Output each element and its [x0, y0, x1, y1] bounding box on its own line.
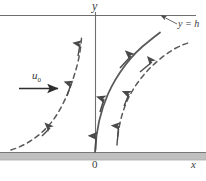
profile-3-arrow-lower	[118, 126, 119, 140]
origin-label: 0	[92, 159, 98, 170]
velocity-profile-figure: y y = h u0 0 x	[0, 0, 206, 181]
profile-1-arrow-middle	[67, 84, 71, 96]
velocity-profile-curve-1	[11, 38, 82, 150]
upper-boundary-label: y = h	[178, 19, 199, 29]
x-axis-label: x	[191, 159, 196, 170]
velocity-profile-curve-2	[95, 33, 160, 153]
profile-1-arrow-upper	[78, 44, 80, 56]
free-stream-velocity-label: u0	[32, 70, 41, 84]
profile-3-arrow-upper	[140, 62, 152, 72]
y-equals-h-leader-line	[161, 16, 177, 25]
velocity-profile-curve-3	[117, 43, 188, 145]
figure-canvas	[0, 0, 206, 181]
free-stream-velocity-subscript: 0	[38, 76, 42, 84]
profile-2-arrow-lower	[96, 136, 97, 150]
y-axis-label: y	[92, 0, 97, 12]
ground-band	[0, 152, 206, 160]
